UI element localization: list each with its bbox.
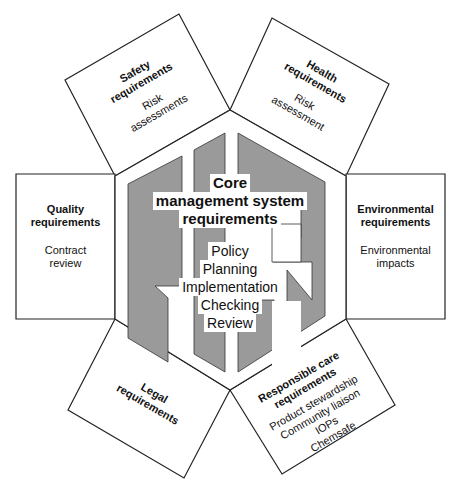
quality-label: Quality requirements Contract review [16, 203, 115, 270]
environmental-item-2: impacts [346, 257, 445, 270]
environmental-item-1: Environmental [346, 244, 445, 257]
core-item-review: Review [204, 314, 256, 332]
environmental-title-2: requirements [346, 216, 445, 229]
core-item-planning: Planning [200, 260, 261, 278]
core-item-policy: Policy [208, 242, 251, 260]
core-item-implementation: Implementation [179, 278, 281, 296]
core-item-checking: Checking [198, 296, 262, 314]
environmental-label: Environmental requirements Environmental… [346, 203, 445, 270]
quality-item-2: review [16, 257, 115, 270]
environmental-title-1: Environmental [346, 203, 445, 216]
core-label: Core management system requirements Poli… [150, 174, 310, 332]
quality-title-1: Quality [16, 203, 115, 216]
quality-item-1: Contract [16, 244, 115, 257]
core-title-line-1: Core [210, 174, 250, 192]
core-title-line-2: management system [153, 192, 307, 210]
core-title-line-3: requirements [179, 210, 280, 228]
quality-title-2: requirements [16, 216, 115, 229]
